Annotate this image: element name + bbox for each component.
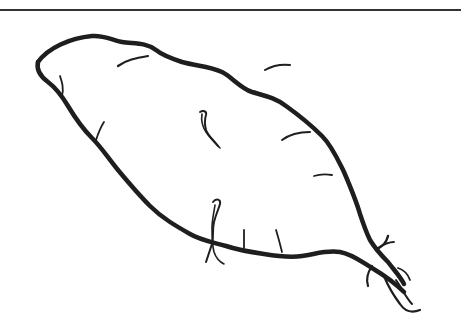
tuber-outline	[37, 36, 404, 292]
upper-sprout	[200, 111, 220, 148]
sweet-potato-illustration	[0, 0, 461, 331]
lower-sprout	[206, 200, 224, 264]
